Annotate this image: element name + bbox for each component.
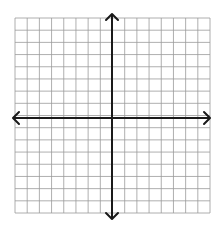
coordinate-plane — [0, 0, 218, 234]
